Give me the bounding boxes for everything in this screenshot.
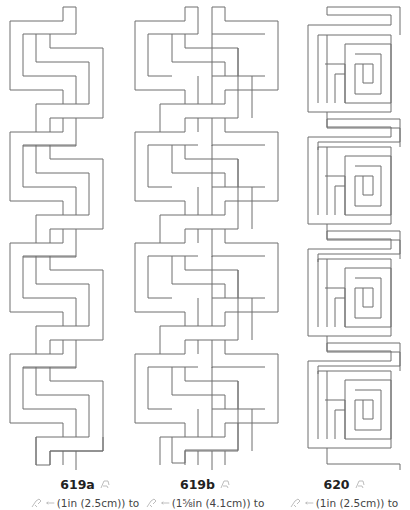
size-text: (1⅝in (4.1cm)) to [172, 497, 265, 509]
hand-stitch-icon [146, 498, 159, 508]
pattern-number: 619b [180, 477, 215, 492]
pattern-620 [308, 7, 400, 470]
width-arrow-icon [305, 498, 314, 508]
caption-620: 620 (1in (2.5cm)) to [274, 474, 410, 510]
stitch-diagram-icon[interactable] [220, 480, 230, 489]
width-arrow-icon [46, 498, 55, 508]
pattern-number: 620 [323, 477, 349, 492]
caption-619b: 619b (1⅝in (4.1cm)) to [135, 474, 275, 510]
size-text: (1in (2.5cm)) to [316, 497, 399, 509]
size-text: (1in (2.5cm)) to [57, 497, 140, 509]
width-arrow-icon [161, 498, 170, 508]
pattern-619b [135, 7, 278, 470]
stitch-diagram-icon[interactable] [100, 480, 110, 489]
quilting-patterns-canvas [0, 0, 410, 470]
pattern-619a [10, 7, 103, 470]
caption-619a: 619a (1in (2.5cm)) to [15, 474, 155, 510]
stitch-diagram-icon[interactable] [355, 480, 365, 489]
hand-stitch-icon [31, 498, 44, 508]
pattern-number: 619a [60, 477, 95, 492]
hand-stitch-icon [290, 498, 303, 508]
